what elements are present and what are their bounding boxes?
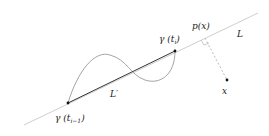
label-projection: p(x) <box>192 21 210 31</box>
point-gamma-ti-1 <box>67 102 70 105</box>
label-L: L <box>236 29 243 39</box>
perpendicular-dashed <box>205 38 227 80</box>
point-x <box>226 79 229 82</box>
line-L <box>24 13 258 125</box>
diagram-canvas: L L′ p(x) x γ (ti) γ (ti−1) <box>0 0 269 136</box>
label-gamma-ti-1: γ (ti−1) <box>55 113 85 124</box>
segment-L-prime <box>68 51 175 103</box>
label-L-prime: L′ <box>109 89 118 99</box>
label-gamma-ti: γ (ti) <box>159 34 180 45</box>
label-x: x <box>222 86 227 96</box>
point-gamma-ti <box>174 50 177 53</box>
